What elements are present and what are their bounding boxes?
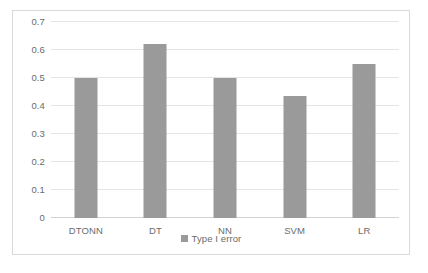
bar-series-type-i-error: DTONNDTNNSVMLR: [51, 22, 399, 218]
y-axis-tick-label: 0.7: [31, 16, 45, 27]
bar: [283, 96, 306, 218]
bar-group: DTONN: [51, 22, 121, 218]
bar-group: SVM: [260, 22, 330, 218]
plot-area: 00.10.20.30.40.50.60.7 DTONNDTNNSVMLR: [51, 22, 399, 218]
y-axis-tick-label: 0.5: [31, 72, 45, 83]
bar: [353, 64, 376, 218]
bar-group: LR: [329, 22, 399, 218]
legend-swatch-icon: [181, 235, 188, 242]
bar: [213, 78, 236, 218]
bar-group: DT: [121, 22, 191, 218]
legend-label: Type I error: [192, 233, 242, 244]
y-axis-tick-label: 0.1: [31, 184, 45, 195]
y-axis-tick-label: 0.6: [31, 44, 45, 55]
y-axis-tick-label: 0.4: [31, 100, 45, 111]
legend-entry-type-i-error: Type I error: [181, 233, 242, 244]
chart-legend: Type I error: [13, 233, 409, 244]
y-axis-tick-label: 0: [40, 212, 45, 223]
chart-frame: 00.10.20.30.40.50.60.7 DTONNDTNNSVMLR Ty…: [12, 10, 410, 255]
y-axis-tick-label: 0.2: [31, 156, 45, 167]
y-axis-tick-label: 0.3: [31, 128, 45, 139]
bar-group: NN: [190, 22, 260, 218]
bar: [74, 78, 97, 218]
bar: [144, 44, 167, 218]
